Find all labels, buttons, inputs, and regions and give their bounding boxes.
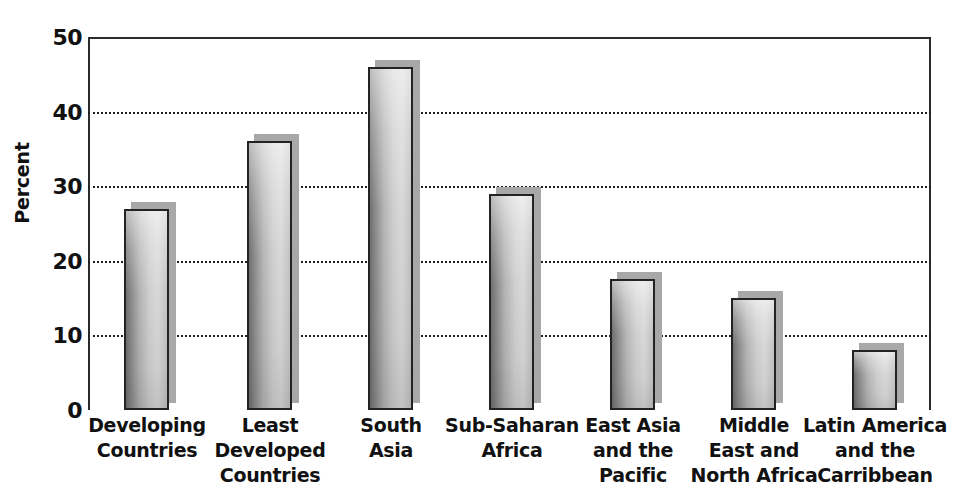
x-axis-label-line: and the bbox=[788, 438, 959, 463]
x-axis-label-line: Carribbean bbox=[788, 463, 959, 488]
bar-group bbox=[852, 343, 904, 410]
bar-group bbox=[610, 272, 662, 410]
bar-group bbox=[124, 202, 176, 410]
bar[interactable] bbox=[489, 194, 534, 410]
bar[interactable] bbox=[852, 350, 897, 410]
bar[interactable] bbox=[731, 298, 776, 410]
bar[interactable] bbox=[247, 141, 292, 410]
x-axis-label: Latin Americaand theCarribbean bbox=[788, 413, 959, 488]
bar-group bbox=[489, 187, 541, 410]
bar-group bbox=[731, 291, 783, 410]
bar-chart: Percent 01020304050 DevelopingCountriesL… bbox=[0, 0, 959, 498]
bar[interactable] bbox=[124, 209, 169, 410]
bar-group bbox=[368, 60, 420, 410]
bar[interactable] bbox=[610, 279, 655, 410]
x-axis-label-line: Countries bbox=[185, 463, 355, 488]
bar[interactable] bbox=[368, 67, 413, 410]
x-axis-labels: DevelopingCountriesLeastDevelopedCountri… bbox=[0, 413, 959, 498]
x-axis-label-line: Latin America bbox=[788, 413, 959, 438]
bar-group bbox=[247, 134, 299, 410]
